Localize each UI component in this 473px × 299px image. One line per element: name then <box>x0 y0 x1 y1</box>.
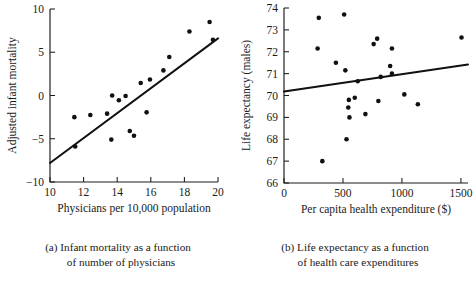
data-point <box>144 110 149 115</box>
data-point <box>355 79 360 84</box>
y-tick-label: 72 <box>267 46 279 58</box>
data-point <box>402 92 407 97</box>
data-point <box>148 77 153 82</box>
data-point <box>117 98 122 103</box>
data-point <box>352 95 357 100</box>
panel-a-caption: (a) Infant mortality as a function of nu… <box>0 240 236 269</box>
y-tick-label: 66 <box>267 177 279 189</box>
x-axis-title: Physicians per 10,000 population <box>57 202 211 215</box>
y-tick-label: −10 <box>26 176 44 188</box>
panel-a-infant-mortality: −10−50510101214161820Physicians per 10,0… <box>0 0 236 299</box>
data-point <box>378 75 383 80</box>
scatterplot-infant-mortality: −10−50510101214161820Physicians per 10,0… <box>0 0 236 236</box>
scatterplot-life-expectancy: 666768697071727374050010001500Per capita… <box>237 0 473 236</box>
data-point <box>315 46 320 51</box>
x-tick-label: 500 <box>334 187 352 199</box>
y-axis-title: Life expectancy (males) <box>240 40 253 151</box>
axis-lines <box>284 8 468 183</box>
x-tick-label: 1000 <box>390 187 413 199</box>
data-point <box>138 81 143 86</box>
y-axis-title: Adjusted infant mortality <box>6 37 19 154</box>
data-point <box>73 144 78 149</box>
data-point <box>459 35 464 40</box>
panel-b-caption: (b) Life expectancy as a function of hea… <box>237 240 473 269</box>
data-point <box>128 129 133 134</box>
x-tick-label: 10 <box>44 186 56 198</box>
data-point <box>416 102 421 107</box>
data-point <box>342 12 347 17</box>
y-tick-label: 68 <box>267 133 279 145</box>
y-tick-label: 73 <box>267 24 279 36</box>
x-tick-label: 14 <box>111 186 123 198</box>
panel-b-life-expectancy: 666768697071727374050010001500Per capita… <box>237 0 473 299</box>
data-point <box>207 20 212 25</box>
data-point <box>363 112 368 117</box>
data-point <box>88 113 93 118</box>
panel-b-caption-line1: (b) Life expectancy as a function <box>237 240 473 255</box>
data-point <box>110 93 115 98</box>
data-point <box>388 64 393 69</box>
y-tick-label: 70 <box>267 90 279 102</box>
regression-line <box>284 64 468 91</box>
data-point <box>371 42 376 47</box>
data-point <box>105 111 110 116</box>
y-tick-label: 74 <box>267 2 279 14</box>
data-point <box>376 99 381 104</box>
figure-container: −10−50510101214161820Physicians per 10,0… <box>0 0 473 299</box>
data-point <box>316 16 321 21</box>
x-tick-label: 20 <box>212 186 224 198</box>
y-tick-label: −5 <box>32 133 44 145</box>
data-point <box>344 137 349 142</box>
data-point <box>123 94 128 99</box>
y-tick-label: 71 <box>267 68 279 80</box>
x-tick-label: 16 <box>145 186 157 198</box>
x-tick-label: 0 <box>281 187 287 199</box>
data-point <box>375 36 380 41</box>
panel-b-caption-line2: of health care expenditures <box>237 255 473 270</box>
x-axis-title: Per capita health expenditure ($) <box>301 203 451 216</box>
x-tick-label: 1500 <box>449 187 472 199</box>
data-point <box>211 37 216 42</box>
data-point <box>320 159 325 164</box>
data-point <box>347 115 352 120</box>
y-tick-label: 69 <box>267 111 279 123</box>
data-point <box>343 68 348 73</box>
y-tick-label: 10 <box>33 3 45 15</box>
data-point <box>109 137 114 142</box>
x-tick-label: 18 <box>179 186 191 198</box>
y-tick-label: 0 <box>38 90 44 102</box>
panel-a-caption-line2: of number of physicians <box>0 255 236 270</box>
x-tick-label: 12 <box>78 186 90 198</box>
data-point <box>161 68 166 73</box>
data-point <box>132 133 137 138</box>
panel-a-caption-line1: (a) Infant mortality as a function <box>0 240 236 255</box>
data-point <box>334 60 339 65</box>
data-point <box>390 71 395 76</box>
data-point <box>390 46 395 51</box>
data-point <box>72 115 77 120</box>
data-point <box>167 55 172 60</box>
data-point <box>347 98 352 103</box>
y-tick-label: 5 <box>38 46 44 58</box>
data-point <box>346 105 351 110</box>
axis-lines <box>50 9 218 182</box>
y-tick-label: 67 <box>267 155 279 167</box>
data-point <box>187 29 192 34</box>
